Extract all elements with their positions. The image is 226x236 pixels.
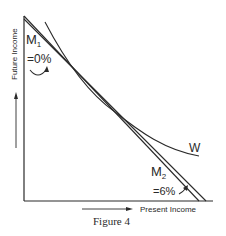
up-arrow-head-icon bbox=[14, 92, 18, 99]
curve-w bbox=[45, 22, 199, 156]
curved-arrow-head-icon bbox=[44, 66, 49, 72]
line-m2 bbox=[24, 19, 206, 201]
m1-rate: =0% bbox=[27, 52, 52, 66]
m2-label: M2 bbox=[151, 164, 167, 181]
y-axis-label: Future Income bbox=[10, 28, 19, 80]
curved-arrow-icon bbox=[30, 70, 46, 75]
line-m1 bbox=[24, 16, 199, 201]
figure-diagram: Future Income Present Income M1 =0% W M2… bbox=[0, 0, 226, 236]
w-label: W bbox=[189, 141, 201, 155]
figure-caption: Figure 4 bbox=[93, 215, 130, 227]
right-arrow-head-icon bbox=[126, 207, 133, 211]
m2-rate: =6% bbox=[153, 185, 176, 197]
x-axis-label: Present Income bbox=[140, 205, 197, 214]
